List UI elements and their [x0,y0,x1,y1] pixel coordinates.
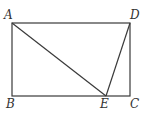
segment-ae [12,23,106,96]
label-a: A [3,8,13,22]
rectangle-abcd [12,23,130,96]
segment-de [106,23,130,96]
label-e: E [99,97,109,111]
geometry-diagram: A D B E C [0,0,147,113]
label-d: D [129,8,140,22]
label-c: C [130,97,139,111]
label-b: B [5,97,15,111]
